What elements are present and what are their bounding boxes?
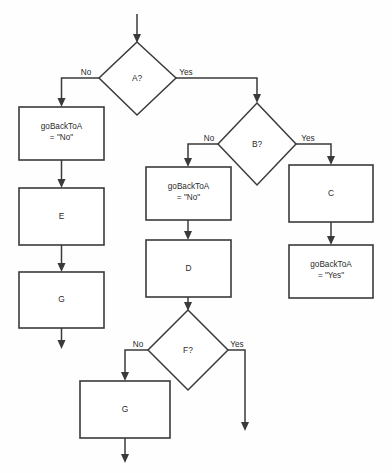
edge-d-to-f — [184, 297, 192, 311]
edge-label-a-yes: Yes — [179, 68, 192, 77]
decision-b-label: B? — [252, 139, 263, 149]
edge-b-yes — [295, 144, 335, 165]
node-decision-a[interactable]: A? — [99, 42, 176, 115]
edge-a-yes — [175, 78, 261, 103]
node-process-c[interactable]: C — [289, 165, 373, 222]
edge-label-f-no: No — [133, 340, 144, 349]
process-g-bottom-label: G — [122, 404, 129, 414]
decision-a-label: A? — [132, 73, 143, 83]
edge-entry-to-a — [133, 14, 141, 43]
flowchart-diagram: A? goBackToA = "No" E G B? goBackToA = "… — [0, 0, 392, 473]
gobacktoa-yes-line2: = "Yes" — [318, 271, 344, 280]
process-e-label: E — [59, 211, 65, 221]
edge-g-left-exit — [58, 328, 66, 349]
edge-g-bottom-exit — [121, 438, 129, 463]
node-process-gobacktoa-no-middle[interactable]: goBackToA = "No" — [146, 167, 231, 220]
edge-label-f-yes: Yes — [230, 340, 243, 349]
edge-b-no — [184, 144, 219, 167]
gobacktoa-middle-line2: = "No" — [177, 193, 200, 202]
edge-f-yes — [228, 350, 249, 431]
edge-gobacktoa-middle-to-d — [184, 220, 192, 240]
node-process-g-left[interactable]: G — [19, 272, 104, 328]
gobacktoa-left-line2: = "No" — [50, 133, 73, 142]
process-c-label: C — [328, 188, 334, 198]
edge-label-a-no: No — [81, 68, 92, 77]
node-process-e[interactable]: E — [19, 188, 104, 245]
gobacktoa-yes-line1: goBackToA — [310, 260, 352, 269]
process-g-left-label: G — [58, 294, 65, 304]
edge-f-no — [121, 350, 148, 381]
node-process-g-bottom[interactable]: G — [80, 381, 170, 438]
node-decision-f[interactable]: F? — [148, 310, 228, 390]
edge-label-b-yes: Yes — [301, 134, 314, 143]
node-process-gobacktoa-no-left[interactable]: goBackToA = "No" — [19, 107, 104, 160]
decision-f-label: F? — [183, 345, 193, 355]
flowchart-canvas: A? goBackToA = "No" E G B? goBackToA = "… — [0, 0, 392, 473]
process-d-label: D — [185, 263, 191, 273]
edge-a-no — [58, 78, 101, 107]
gobacktoa-left-line1: goBackToA — [41, 122, 83, 131]
node-process-d[interactable]: D — [146, 240, 231, 297]
edge-label-b-no: No — [204, 134, 215, 143]
gobacktoa-middle-line1: goBackToA — [168, 182, 210, 191]
edge-c-to-gobacktoa-yes — [327, 222, 335, 245]
edge-e-to-g — [58, 245, 66, 272]
node-process-gobacktoa-yes[interactable]: goBackToA = "Yes" — [289, 245, 373, 298]
edge-gobacktoa-left-to-e — [58, 160, 66, 188]
